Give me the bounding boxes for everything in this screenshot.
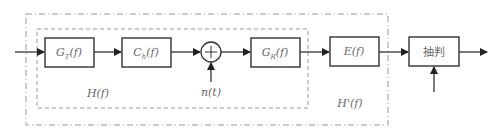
- inner-group-label: H(f): [86, 87, 109, 100]
- block-e: E(f): [330, 37, 379, 66]
- block-ch: Ch(f): [122, 38, 171, 67]
- block-gr: GR(f): [251, 38, 300, 67]
- svg-text:E(f): E(f): [343, 45, 365, 58]
- svg-text:GR(f): GR(f): [262, 46, 289, 61]
- block-gt: GT(f): [45, 38, 94, 67]
- block-diagram: GT(f) Ch(f) n(t) GR(f) E(f) 抽判 H(f) H'(f…: [0, 0, 501, 135]
- svg-text:GT(f): GT(f): [56, 46, 82, 61]
- svg-text:Ch(f): Ch(f): [133, 46, 159, 61]
- summing-junction: [201, 42, 221, 62]
- outer-group-label: H'(f): [336, 97, 362, 110]
- svg-text:抽判: 抽判: [423, 45, 445, 59]
- noise-label: n(t): [201, 86, 221, 99]
- block-decision: 抽判: [409, 37, 459, 66]
